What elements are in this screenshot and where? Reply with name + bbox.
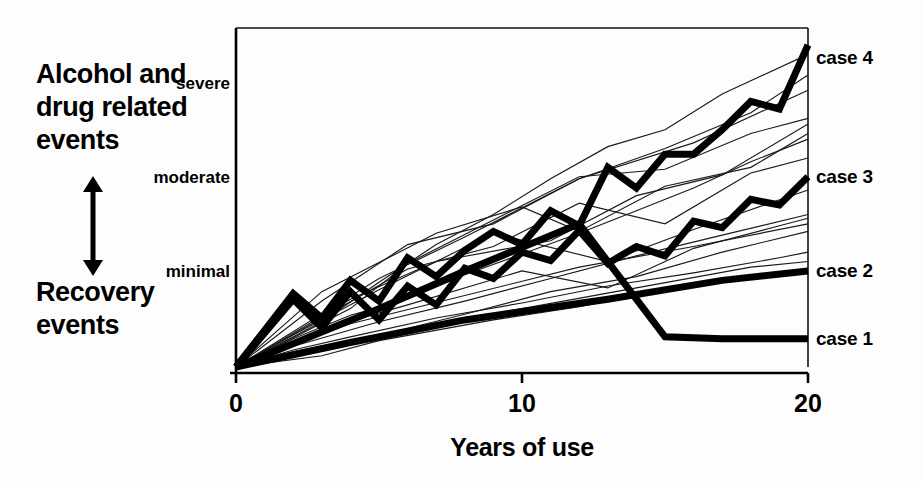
ytick-label-minimal: minimal [166, 262, 230, 282]
background-trajectory-3 [236, 214, 808, 367]
xtick-label-0: 0 [196, 389, 276, 418]
chart-figure: Alcohol and drug related events Recovery… [0, 0, 923, 481]
xtick-label-10: 10 [482, 389, 562, 418]
ytick-label-severe: severe [176, 74, 230, 94]
ytick-label-moderate: moderate [153, 168, 230, 188]
x-axis-title: Years of use [417, 433, 627, 462]
series-label-case-2: case 2 [816, 260, 873, 282]
series-label-case-3: case 3 [816, 166, 873, 188]
series-label-case-4: case 4 [816, 47, 873, 69]
series-label-case-1: case 1 [816, 328, 873, 350]
xtick-label-20: 20 [768, 389, 848, 418]
